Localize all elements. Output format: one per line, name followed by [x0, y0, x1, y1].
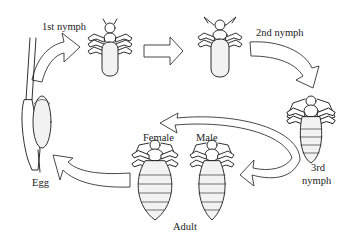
label-nymph3-line1: 3rd [311, 162, 325, 174]
label-nymph1: 1st nymph [42, 21, 86, 33]
arrow-nymph2-to-nymph3 [250, 42, 319, 88]
label-egg: Egg [32, 177, 49, 189]
label-nymph2: 2nd nymph [256, 27, 304, 39]
label-female: Female [143, 132, 174, 144]
arrow-adult-to-egg [53, 155, 130, 187]
life-cycle-diagram [0, 0, 360, 245]
arrow-egg-to-nymph1 [32, 33, 80, 82]
arrow-nymph1-to-nymph2 [144, 37, 183, 65]
female-illustration [132, 140, 178, 220]
nymph2-illustration [198, 17, 242, 77]
male-illustration [190, 140, 234, 220]
label-male: Male [196, 132, 218, 144]
nymph1-illustration [88, 19, 132, 76]
label-adult: Adult [173, 221, 197, 233]
label-nymph3-line2: nymph [302, 175, 331, 187]
